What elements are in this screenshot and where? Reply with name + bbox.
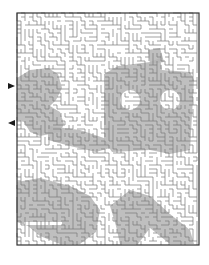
exit-arrow-icon bbox=[8, 120, 15, 126]
maze-canvas[interactable] bbox=[0, 0, 209, 265]
maze-arrows bbox=[8, 83, 15, 126]
shaded-picture bbox=[17, 48, 194, 244]
maze-puzzle bbox=[0, 0, 209, 265]
entry-arrow-icon bbox=[8, 83, 15, 89]
